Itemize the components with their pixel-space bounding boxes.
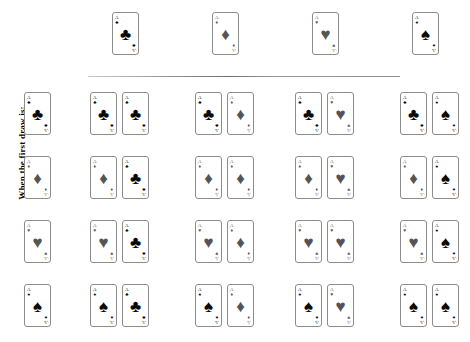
card-corner-tl: A♠ <box>403 287 407 297</box>
spades-icon: ♠ <box>25 297 50 314</box>
diamonds-icon: ♦ <box>228 105 253 122</box>
card-rank-label: A <box>215 192 219 197</box>
diamonds-icon: ♦ <box>248 123 251 128</box>
card-corner-br: A♣ <box>142 251 146 261</box>
card-corner-tl: A♥ <box>403 223 407 233</box>
card-rank-label: A <box>110 128 114 133</box>
card-rank-label: A <box>420 256 424 261</box>
card-rank-label: A <box>315 192 319 197</box>
card-corner-br: A♥ <box>315 251 319 261</box>
spades-icon: ♠ <box>453 315 456 320</box>
card-rank-label: A <box>315 256 319 261</box>
clubs-icon: ♣ <box>45 123 48 128</box>
hearts-icon: ♥ <box>348 187 351 192</box>
spades-icon: ♠ <box>296 297 321 314</box>
card-corner-tl: A♠ <box>435 223 439 233</box>
card-corner-br: A♣ <box>110 123 114 133</box>
spades-icon: ♠ <box>111 315 114 320</box>
card-rank-label: A <box>44 192 48 197</box>
card-rank-label: A <box>215 320 219 325</box>
spades-icon: ♠ <box>403 292 406 297</box>
card-corner-br: A♥ <box>347 251 351 261</box>
spades-icon: ♠ <box>435 228 438 233</box>
card-corner-br: A♣ <box>215 123 219 133</box>
diamonds-icon: ♦ <box>401 169 426 186</box>
diamonds-icon: ♦ <box>421 187 424 192</box>
card-corner-tl: A♥ <box>330 159 334 169</box>
card-corner-tl: A♦ <box>298 159 302 169</box>
hearts-icon: ♥ <box>196 233 221 250</box>
card-a-diamonds-r1c3-first: A♦A♦♦ <box>400 156 427 199</box>
card-corner-tl: A♠ <box>198 287 202 297</box>
card-corner-br: A♥ <box>347 315 351 325</box>
diamonds-icon: ♦ <box>196 169 221 186</box>
diamonds-icon: ♦ <box>228 233 253 250</box>
card-corner-tl: A♥ <box>330 95 334 105</box>
card-corner-br: A♠ <box>452 187 456 197</box>
hearts-icon: ♥ <box>421 251 424 256</box>
diamonds-icon: ♦ <box>404 164 407 169</box>
hearts-icon: ♥ <box>330 164 333 169</box>
card-rank-label: A <box>247 320 251 325</box>
card-corner-br: A♠ <box>452 251 456 261</box>
card-rank-label: A <box>44 320 48 325</box>
card-corner-tl: A♣ <box>298 95 302 105</box>
hearts-icon: ♥ <box>330 292 333 297</box>
hearts-icon: ♥ <box>316 251 319 256</box>
card-a-spades-r3c1-first: A♠A♠♠ <box>195 284 222 327</box>
clubs-icon: ♣ <box>123 233 148 250</box>
hearts-icon: ♥ <box>298 228 301 233</box>
spades-icon: ♠ <box>453 187 456 192</box>
clubs-icon: ♣ <box>123 297 148 314</box>
card-a-hearts-r2c2-second: A♥A♥♥ <box>327 220 354 263</box>
card-corner-br: A♠ <box>420 315 424 325</box>
spades-icon: ♠ <box>453 123 456 128</box>
card-corner-tl: A♥ <box>27 223 31 233</box>
card-corner-tl: A♥ <box>330 287 334 297</box>
card-rank-label: A <box>215 128 219 133</box>
clubs-icon: ♣ <box>296 105 321 122</box>
spades-icon: ♠ <box>433 105 458 122</box>
card-corner-br: A♦ <box>215 187 219 197</box>
clubs-icon: ♣ <box>196 105 221 122</box>
clubs-icon: ♣ <box>125 228 128 233</box>
card-a-spades-r0c3-second: A♠A♠♠ <box>432 92 459 135</box>
card-corner-br: A♠ <box>44 315 48 325</box>
clubs-icon: ♣ <box>298 100 301 105</box>
card-corner-tl: A♦ <box>230 95 234 105</box>
diamonds-icon: ♦ <box>248 187 251 192</box>
clubs-icon: ♣ <box>93 100 96 105</box>
card-rank-label: A <box>247 256 251 261</box>
spades-icon: ♠ <box>316 315 319 320</box>
card-corner-br: A♣ <box>142 187 146 197</box>
spades-icon: ♠ <box>421 315 424 320</box>
diamonds-icon: ♦ <box>231 228 234 233</box>
diamonds-icon: ♦ <box>228 297 253 314</box>
card-a-diamonds-r2c1-second: A♦A♦♦ <box>227 220 254 263</box>
card-a-clubs-r2c0-second: A♣A♣♣ <box>122 220 149 263</box>
hearts-icon: ♥ <box>403 228 406 233</box>
card-corner-br: A♣ <box>142 315 146 325</box>
spades-icon: ♠ <box>45 315 48 320</box>
card-rank-label: A <box>247 192 251 197</box>
hearts-icon: ♥ <box>328 105 353 122</box>
card-a-clubs-rowlabel: A♣A♣♣ <box>24 92 51 135</box>
clubs-icon: ♣ <box>91 105 116 122</box>
card-a-clubs-r0c1-first: A♣A♣♣ <box>195 92 222 135</box>
clubs-icon: ♣ <box>143 251 146 256</box>
diamonds-icon: ♦ <box>228 169 253 186</box>
spades-icon: ♠ <box>196 297 221 314</box>
clubs-icon: ♣ <box>143 187 146 192</box>
card-corner-tl: A♦ <box>403 159 407 169</box>
card-corner-tl: A♣ <box>125 287 129 297</box>
card-corner-br: A♦ <box>110 187 114 197</box>
clubs-icon: ♣ <box>316 123 319 128</box>
clubs-icon: ♣ <box>123 105 148 122</box>
card-a-clubs-r1c0-second: A♣A♣♣ <box>122 156 149 199</box>
card-corner-br: A♠ <box>110 315 114 325</box>
hearts-icon: ♥ <box>91 233 116 250</box>
card-rank-label: A <box>452 320 456 325</box>
card-a-diamonds-r1c2-first: A♦A♦♦ <box>295 156 322 199</box>
card-corner-br: A♦ <box>44 187 48 197</box>
clubs-icon: ♣ <box>125 164 128 169</box>
